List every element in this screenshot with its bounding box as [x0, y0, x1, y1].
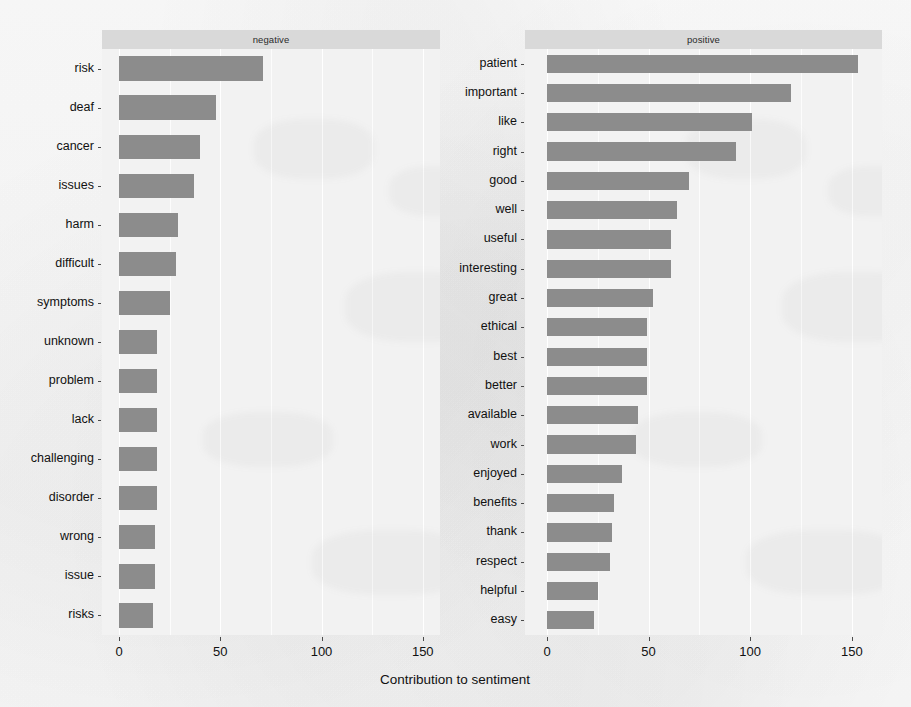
- y-axis-tick: [98, 264, 101, 265]
- x-axis-tick: [750, 637, 751, 641]
- y-axis-tick-label: thank: [399, 525, 517, 538]
- y-axis-tick: [521, 620, 524, 621]
- y-axis-tick-label: patient: [399, 57, 517, 70]
- y-axis-tick-label: like: [399, 115, 517, 128]
- bar[interactable]: [119, 525, 155, 549]
- bar[interactable]: [119, 603, 153, 627]
- y-axis-tick-label: respect: [399, 555, 517, 568]
- y-axis-tick: [521, 327, 524, 328]
- y-axis-tick: [521, 152, 524, 153]
- y-axis-tick-label: harm: [0, 218, 94, 231]
- bar[interactable]: [547, 55, 858, 73]
- y-axis-tick: [98, 459, 101, 460]
- y-axis-tick: [98, 186, 101, 187]
- facet-strip-positive: positive: [525, 30, 882, 49]
- y-axis-tick: [98, 342, 101, 343]
- bar[interactable]: [119, 95, 216, 119]
- bar[interactable]: [547, 113, 752, 131]
- gridline-minor: [699, 49, 700, 635]
- y-axis-tick-label: issue: [0, 569, 94, 582]
- y-axis-tick: [521, 64, 524, 65]
- sentiment-contribution-chart: negative positive riskdeafcancerissuesha…: [0, 0, 911, 707]
- gridline-minor: [801, 49, 802, 635]
- bar[interactable]: [547, 260, 671, 278]
- y-axis-tick-label: lack: [0, 413, 94, 426]
- x-axis-tick: [852, 637, 853, 641]
- bar[interactable]: [119, 408, 157, 432]
- scan-smudge: [782, 272, 882, 342]
- y-axis-tick: [98, 108, 101, 109]
- y-axis-tick: [98, 576, 101, 577]
- bar[interactable]: [119, 56, 263, 80]
- bar[interactable]: [119, 447, 157, 471]
- x-axis-tick-label: 150: [841, 644, 863, 659]
- y-axis-tick-label: disorder: [0, 491, 94, 504]
- facet-negative: negative: [102, 30, 440, 635]
- plot-panel-negative: [102, 49, 440, 635]
- bar[interactable]: [119, 486, 157, 510]
- gridline-major: [220, 49, 221, 635]
- x-axis-tick: [220, 637, 221, 641]
- gridline-major: [547, 49, 548, 635]
- bar[interactable]: [547, 494, 614, 512]
- gridline-minor: [372, 49, 373, 635]
- y-axis-tick-label: problem: [0, 374, 94, 387]
- bar[interactable]: [547, 348, 647, 366]
- bar[interactable]: [119, 252, 176, 276]
- bar[interactable]: [547, 230, 671, 248]
- bar[interactable]: [547, 523, 612, 541]
- y-axis-tick-label: easy: [399, 613, 517, 626]
- y-axis-tick-label: best: [399, 350, 517, 363]
- x-axis-tick: [119, 637, 120, 641]
- bar[interactable]: [547, 377, 647, 395]
- y-axis-tick: [98, 69, 101, 70]
- x-axis-tick-label: 50: [213, 644, 227, 659]
- y-axis-tick: [521, 181, 524, 182]
- y-axis-tick-label: interesting: [399, 262, 517, 275]
- x-axis-tick: [322, 637, 323, 641]
- y-axis-tick-label: deaf: [0, 101, 94, 114]
- bar[interactable]: [547, 611, 594, 629]
- y-axis-tick-label: ethical: [399, 320, 517, 333]
- bar[interactable]: [119, 135, 200, 159]
- y-axis-tick-label: available: [399, 408, 517, 421]
- y-axis-tick: [98, 147, 101, 148]
- bar[interactable]: [547, 84, 791, 102]
- bar[interactable]: [119, 213, 178, 237]
- gridline-major: [750, 49, 751, 635]
- x-axis-tick-label: 100: [311, 644, 333, 659]
- bar[interactable]: [547, 289, 653, 307]
- y-axis-tick: [98, 420, 101, 421]
- y-axis-tick: [521, 122, 524, 123]
- bar[interactable]: [547, 465, 622, 483]
- bar[interactable]: [119, 369, 157, 393]
- y-axis-tick: [521, 474, 524, 475]
- gridline-major: [423, 49, 424, 635]
- facet-strip-label-positive: positive: [687, 34, 720, 45]
- bar[interactable]: [547, 435, 636, 453]
- bar[interactable]: [547, 172, 689, 190]
- bar[interactable]: [547, 142, 736, 160]
- bar[interactable]: [547, 553, 610, 571]
- bar[interactable]: [547, 582, 598, 600]
- x-axis-title: Contribution to sentiment: [380, 672, 530, 687]
- y-axis-tick-label: unknown: [0, 335, 94, 348]
- bar[interactable]: [119, 330, 157, 354]
- x-axis-tick-label: 0: [543, 644, 550, 659]
- bar[interactable]: [119, 174, 194, 198]
- bar[interactable]: [119, 291, 170, 315]
- bar[interactable]: [547, 406, 638, 424]
- plot-panel-positive: [525, 49, 882, 635]
- y-axis-tick: [521, 93, 524, 94]
- y-axis-tick: [521, 386, 524, 387]
- y-axis-tick-label: good: [399, 174, 517, 187]
- bar[interactable]: [547, 201, 677, 219]
- bar[interactable]: [119, 564, 155, 588]
- y-axis-tick-label: symptoms: [0, 296, 94, 309]
- gridline-major: [649, 49, 650, 635]
- gridline-major: [322, 49, 323, 635]
- y-axis-tick-label: risk: [0, 62, 94, 75]
- scan-smudge: [254, 119, 374, 179]
- bar[interactable]: [547, 318, 647, 336]
- y-axis-tick: [521, 269, 524, 270]
